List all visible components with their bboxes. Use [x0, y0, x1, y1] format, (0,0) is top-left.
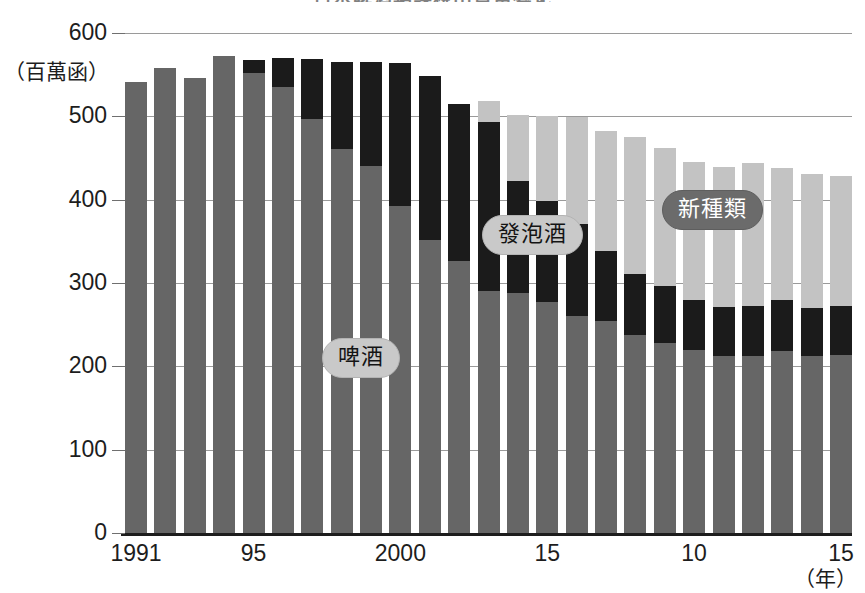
bar-1991: [125, 82, 147, 533]
bar-2008: [624, 137, 646, 533]
bar-segment-beer: [213, 56, 235, 533]
bar-2005: [536, 116, 558, 533]
bar-segment-beer: [771, 351, 793, 533]
y-tick-100: [112, 450, 125, 451]
page-title: 日本啤酒類課稅出貨量變化: [0, 0, 865, 2]
chart-figure: 日本啤酒類課稅出貨量變化 （百萬函） （年） 60050040030020010…: [0, 0, 865, 593]
bar-segment-happoshu: [301, 59, 323, 119]
bar-segment-new-genre: [478, 101, 500, 123]
bar-segment-happoshu: [243, 60, 265, 73]
bar-segment-happoshu: [448, 104, 470, 261]
bar-1998: [331, 62, 353, 533]
bar-segment-new-genre: [624, 137, 646, 274]
y-tick-600: [112, 33, 125, 34]
y-axis-label-500: 500: [69, 104, 107, 127]
bar-segment-beer: [243, 73, 265, 533]
bar-segment-beer: [624, 335, 646, 533]
bar-segment-new-genre: [536, 116, 558, 200]
bar-segment-beer: [125, 82, 147, 533]
y-tick-400: [112, 200, 125, 201]
bar-segment-beer: [154, 68, 176, 533]
y-axis-label-600: 600: [69, 21, 107, 44]
bar-segment-new-genre: [801, 174, 823, 308]
bar-1996: [272, 58, 294, 533]
y-tick-0: [112, 533, 125, 534]
bar-2006: [566, 117, 588, 533]
bar-segment-new-genre: [830, 176, 852, 307]
bar-segment-beer: [419, 240, 441, 533]
bar-segment-beer: [683, 350, 705, 533]
legend-pill-beer: 啤酒: [322, 338, 400, 378]
y-axis-label-0: 0: [94, 521, 107, 544]
bar-1993: [184, 78, 206, 533]
bar-segment-beer: [507, 293, 529, 533]
bar-2001: [419, 76, 441, 533]
x-axis-label-2: 2000: [375, 540, 426, 567]
bar-2003: [478, 101, 500, 533]
bar-2007: [595, 131, 617, 533]
x-axis-label-0: 1991: [110, 540, 161, 567]
bar-segment-happoshu: [801, 308, 823, 356]
y-axis-label-400: 400: [69, 188, 107, 211]
bar-2015: [830, 176, 852, 533]
bar-segment-new-genre: [742, 163, 764, 306]
bar-segment-happoshu: [272, 58, 294, 87]
x-axis-label-5: 15: [828, 540, 854, 567]
bar-segment-beer: [595, 321, 617, 533]
bar-segment-happoshu: [478, 122, 500, 290]
x-axis-line: [121, 533, 852, 536]
bar-1995: [243, 60, 265, 533]
y-axis-unit-label: （百萬函）: [4, 55, 109, 85]
bar-segment-beer: [830, 355, 852, 533]
bar-segment-beer: [301, 119, 323, 533]
bar-2013: [771, 168, 793, 533]
bar-segment-beer: [801, 356, 823, 533]
bar-segment-happoshu: [419, 76, 441, 239]
bar-2004: [507, 115, 529, 533]
y-axis-label-300: 300: [69, 271, 107, 294]
bar-1994: [213, 56, 235, 533]
bar-segment-beer: [448, 261, 470, 534]
bar-segment-new-genre: [683, 162, 705, 300]
bar-segment-new-genre: [566, 117, 588, 224]
y-tick-500: [112, 116, 125, 117]
bar-segment-beer: [654, 343, 676, 533]
bar-segment-beer: [536, 302, 558, 533]
bar-1992: [154, 68, 176, 533]
x-axis-label-4: 10: [681, 540, 707, 567]
bar-segment-new-genre: [595, 131, 617, 251]
y-tick-300: [112, 283, 125, 284]
bar-segment-new-genre: [507, 115, 529, 182]
bar-segment-happoshu: [389, 63, 411, 206]
bar-segment-happoshu: [830, 306, 852, 354]
bar-segment-happoshu: [742, 306, 764, 356]
bar-segment-beer: [478, 291, 500, 534]
bar-2014: [801, 174, 823, 533]
x-axis-label-3: 15: [534, 540, 560, 567]
bar-segment-happoshu: [331, 62, 353, 149]
bar-segment-happoshu: [624, 274, 646, 335]
bar-segment-happoshu: [683, 300, 705, 350]
legend-pill-new-genre: 新種類: [662, 190, 763, 230]
plot-area: [125, 33, 852, 533]
bar-segment-happoshu: [654, 286, 676, 343]
y-axis-label-200: 200: [69, 354, 107, 377]
bar-1997: [301, 59, 323, 533]
bar-segment-happoshu: [713, 307, 735, 356]
bar-segment-new-genre: [713, 167, 735, 307]
x-axis-label-1: 95: [241, 540, 267, 567]
gridline-600: [125, 33, 852, 34]
bar-1999: [360, 62, 382, 533]
y-axis-label-100: 100: [69, 438, 107, 461]
legend-pill-happoshu: 發泡酒: [482, 215, 583, 255]
bar-segment-beer: [742, 356, 764, 533]
bar-segment-beer: [184, 78, 206, 533]
bar-segment-new-genre: [771, 168, 793, 300]
bar-2002: [448, 104, 470, 533]
y-tick-200: [112, 366, 125, 367]
bar-segment-beer: [713, 356, 735, 533]
bar-segment-beer: [272, 87, 294, 533]
bar-segment-happoshu: [595, 251, 617, 322]
bar-segment-happoshu: [771, 300, 793, 352]
bar-segment-happoshu: [360, 62, 382, 165]
